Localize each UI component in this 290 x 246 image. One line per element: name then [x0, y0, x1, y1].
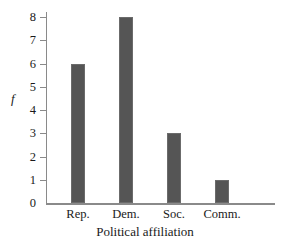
y-axis-title: f — [11, 92, 15, 105]
y-axis-tick-label: 6 — [20, 58, 36, 71]
y-axis-tick — [40, 87, 46, 88]
x-axis-title: Political affiliation — [0, 225, 290, 238]
y-axis-tick — [40, 110, 46, 111]
y-axis-tick-label: 5 — [20, 81, 36, 94]
y-axis-tick — [40, 64, 46, 65]
bar-chart: f 012345678 Rep.Dem.Soc.Comm. Political … — [0, 0, 290, 246]
y-axis-tick-label: 7 — [20, 34, 36, 47]
x-axis-line — [46, 203, 275, 205]
bar — [71, 64, 85, 204]
x-axis-tick-label: Comm. — [192, 208, 252, 221]
y-axis-tick-label: 8 — [20, 11, 36, 24]
y-axis-tick — [40, 180, 46, 181]
y-axis-tick-label: 4 — [20, 104, 36, 117]
y-axis-tick — [40, 40, 46, 41]
y-axis-tick — [40, 157, 46, 158]
y-axis-tick-label: 3 — [20, 127, 36, 140]
bar — [215, 180, 229, 203]
bar — [167, 133, 181, 203]
y-axis-tick-label: 2 — [20, 151, 36, 164]
y-axis-tick — [40, 17, 46, 18]
y-axis-tick-label: 0 — [20, 197, 36, 210]
y-axis-line — [46, 12, 47, 204]
y-axis-tick — [40, 133, 46, 134]
y-axis-tick-label: 1 — [20, 174, 36, 187]
bar — [119, 17, 133, 203]
